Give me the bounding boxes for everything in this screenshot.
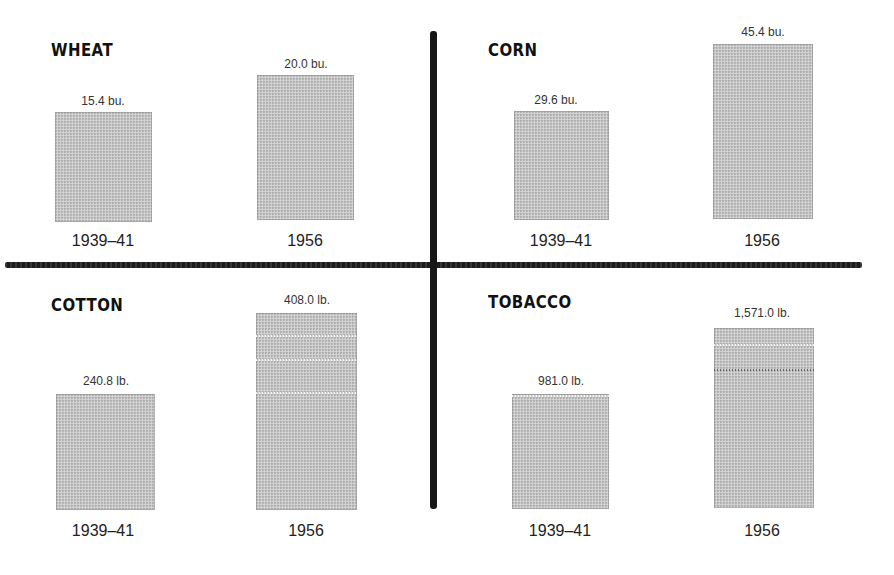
bar-value-label: 29.6 bu. bbox=[486, 93, 626, 107]
bar-1956 bbox=[257, 75, 354, 220]
panel-title: CORN bbox=[488, 40, 538, 60]
bar-value-label: 20.0 bu. bbox=[236, 57, 376, 71]
year-label: 1956 bbox=[692, 522, 832, 540]
bar-1939-41 bbox=[55, 112, 152, 222]
bar-1939-41 bbox=[512, 394, 609, 509]
bar-1939-41 bbox=[514, 111, 609, 220]
bar-stripe bbox=[256, 335, 357, 337]
bar-1956 bbox=[714, 328, 814, 508]
year-label: 1956 bbox=[692, 232, 832, 250]
year-label: 1956 bbox=[236, 522, 376, 540]
year-label: 1956 bbox=[235, 232, 375, 250]
bar-value-label: 45.4 bu. bbox=[693, 25, 833, 39]
bar-value-label: 15.4 bu. bbox=[33, 94, 173, 108]
year-label: 1939–41 bbox=[490, 522, 630, 540]
panel-title: COTTON bbox=[51, 295, 123, 315]
panel-title: WHEAT bbox=[51, 40, 113, 60]
bar-stripe bbox=[714, 344, 814, 346]
bar-value-label: 240.8 lb. bbox=[36, 374, 176, 388]
bar-value-label: 408.0 lb. bbox=[237, 293, 377, 307]
bar-1956 bbox=[256, 313, 357, 510]
bar-stripe bbox=[256, 392, 357, 394]
bar-1956 bbox=[713, 44, 813, 219]
bar-value-label: 981.0 lb. bbox=[491, 374, 631, 388]
vertical-divider bbox=[430, 31, 437, 509]
panel-title: TOBACCO bbox=[488, 292, 572, 312]
year-label: 1939–41 bbox=[33, 522, 173, 540]
bar-1939-41 bbox=[56, 394, 155, 510]
bar-stripe bbox=[256, 359, 357, 361]
bar-value-label: 1,571.0 lb. bbox=[692, 306, 832, 320]
year-label: 1939–41 bbox=[33, 232, 173, 250]
bar-stripe bbox=[714, 369, 814, 371]
bar-stripe bbox=[512, 395, 609, 397]
year-label: 1939–41 bbox=[491, 232, 631, 250]
